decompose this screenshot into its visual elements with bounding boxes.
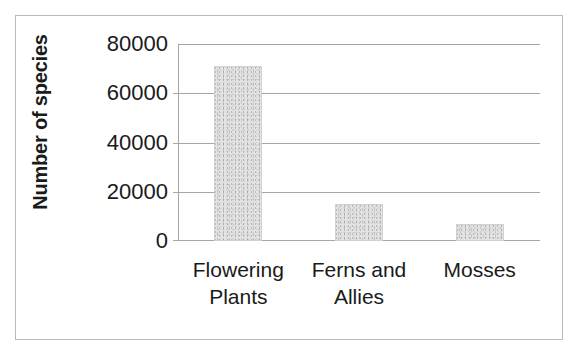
gridline-80000 [178,44,540,45]
bar-mosses [456,224,504,241]
y-tick-mark-60000 [173,93,178,94]
x-label-line-2: Allies [299,283,420,310]
y-tick-label-80000: 80000 [58,33,168,55]
plot-inner [178,44,540,241]
y-tick-label-60000: 60000 [58,82,168,104]
x-axis-labels: Flowering Plants Ferns and Allies Mosses [178,256,540,326]
x-label-line-2: Plants [178,283,299,310]
y-axis-tick-labels: 80000 60000 40000 20000 0 [58,0,168,359]
x-axis-label-mosses: Mosses [419,256,540,283]
x-axis-label-ferns-and-allies: Ferns and Allies [299,256,420,310]
x-label-line-1: Mosses [443,258,515,281]
y-tick-mark-0 [173,240,178,241]
x-label-line-1: Flowering [193,258,284,281]
bar-ferns-and-allies [335,204,383,241]
x-label-line-1: Ferns and [312,258,407,281]
y-tick-label-0: 0 [58,230,168,252]
y-tick-label-20000: 20000 [58,181,168,203]
y-tick-mark-40000 [173,143,178,144]
y-axis-title: Number of species [24,22,56,222]
x-axis-label-flowering-plants: Flowering Plants [178,256,299,310]
plot-area [178,44,540,241]
bar-flowering-plants [214,66,262,241]
y-tick-label-40000: 40000 [58,132,168,154]
y-tick-mark-20000 [173,192,178,193]
bar-chart-figure: Number of species 80000 60000 40000 2000… [0,0,578,359]
